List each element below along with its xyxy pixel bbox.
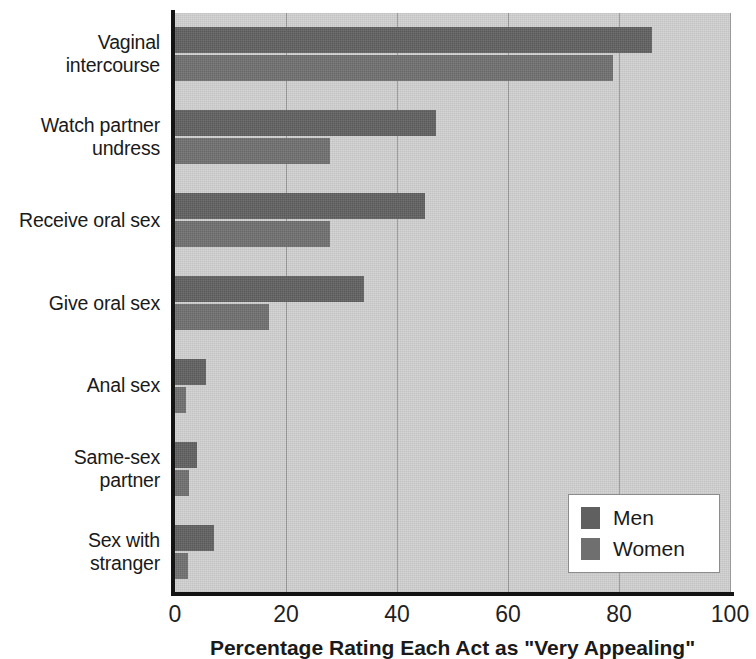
x-axis-line [171, 592, 734, 596]
category-axis-labels: VaginalintercourseWatch partnerundressRe… [0, 13, 168, 593]
bar-women-0 [175, 55, 613, 81]
bar-women-2 [175, 221, 330, 247]
category-label-5: Same-sexpartner [0, 446, 160, 492]
bar-men-0 [175, 27, 652, 53]
bar-men-4 [175, 359, 206, 385]
category-label-1: Watch partnerundress [0, 114, 160, 160]
x-axis-title: Percentage Rating Each Act as "Very Appe… [175, 636, 730, 659]
category-label-line: stranger [0, 552, 160, 575]
category-label-line: undress [0, 137, 160, 160]
bar-women-6 [175, 553, 188, 579]
legend-swatch-men [581, 507, 600, 529]
category-label-line: Anal sex [0, 374, 160, 397]
x-axis-tick-labels: 020406080100 [0, 601, 756, 629]
bar-women-4 [175, 387, 186, 413]
category-label-6: Sex withstranger [0, 529, 160, 575]
legend-label: Women [613, 538, 685, 560]
x-tick-label-100: 100 [711, 601, 749, 628]
category-label-2: Receive oral sex [0, 209, 160, 232]
y-axis-line [171, 10, 175, 596]
category-label-line: Same-sex [0, 446, 160, 469]
bar-chart: VaginalintercourseWatch partnerundressRe… [0, 0, 756, 659]
category-label-line: Vaginal [0, 31, 160, 54]
bar-men-3 [175, 276, 364, 302]
gridline-60 [508, 13, 509, 593]
chart-legend: MenWomen [568, 494, 720, 573]
gridline-100 [730, 13, 731, 593]
legend-label: Men [613, 507, 654, 529]
legend-swatch-women [581, 538, 600, 560]
category-label-4: Anal sex [0, 374, 160, 397]
legend-item-men[interactable]: Men [581, 503, 654, 533]
bar-men-5 [175, 442, 197, 468]
bar-women-1 [175, 138, 330, 164]
gridline-20 [286, 13, 287, 593]
category-label-line: Sex with [0, 529, 160, 552]
x-tick-label-20: 20 [273, 601, 299, 628]
x-tick-label-60: 60 [495, 601, 521, 628]
category-label-line: intercourse [0, 54, 160, 77]
gridline-40 [397, 13, 398, 593]
bar-men-1 [175, 110, 436, 136]
x-tick-label-0: 0 [169, 601, 182, 628]
x-tick-label-80: 80 [606, 601, 632, 628]
category-label-line: partner [0, 469, 160, 492]
category-label-line: Watch partner [0, 114, 160, 137]
category-label-3: Give oral sex [0, 292, 160, 315]
legend-item-women[interactable]: Women [581, 534, 685, 564]
category-label-line: Give oral sex [0, 292, 160, 315]
bar-women-5 [175, 470, 189, 496]
category-label-0: Vaginalintercourse [0, 31, 160, 77]
bar-men-6 [175, 525, 214, 551]
category-label-line: Receive oral sex [0, 209, 160, 232]
bar-women-3 [175, 304, 269, 330]
x-tick-label-40: 40 [384, 601, 410, 628]
bar-men-2 [175, 193, 425, 219]
